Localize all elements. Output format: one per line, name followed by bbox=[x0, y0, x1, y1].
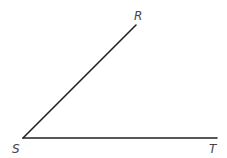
label-S: S bbox=[12, 142, 20, 156]
angle-diagram: R S T bbox=[0, 0, 227, 158]
label-T: T bbox=[209, 142, 218, 156]
ray-SR bbox=[23, 25, 136, 138]
label-R: R bbox=[134, 9, 142, 23]
